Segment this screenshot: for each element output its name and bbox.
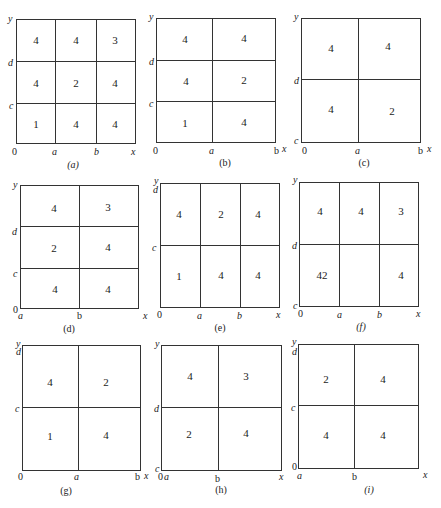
origin-label: 0 — [153, 146, 158, 156]
cell-value: 4 — [112, 78, 118, 89]
tick-label-c: c — [293, 301, 297, 311]
axis-label-x: x — [131, 147, 135, 157]
grid-line-y-d — [301, 79, 421, 80]
grid-line-x-a — [55, 19, 56, 144]
cell-value: 4 — [380, 430, 386, 441]
tick-label-c: c — [13, 269, 17, 279]
tick-label-c: c — [152, 243, 156, 253]
cell-value: 4 — [358, 206, 364, 217]
grid-line-y-d — [16, 61, 136, 62]
grid-line-x-a — [212, 18, 213, 143]
grid-line-y-d — [20, 226, 139, 227]
panel-caption: (f) — [356, 322, 365, 332]
tick-label-a: a — [337, 310, 342, 320]
panel-caption: (c) — [358, 158, 369, 168]
tick-label-b: b — [418, 146, 423, 156]
cell-value: 1 — [47, 431, 53, 442]
cell-value: 4 — [105, 242, 111, 253]
tick-label-d: d — [292, 347, 297, 357]
tick-label-a: a — [355, 146, 360, 156]
cell-value: 4 — [380, 374, 386, 385]
cell-value: 4 — [51, 203, 57, 214]
cell-value: 1 — [182, 118, 188, 129]
cell-value: 4 — [243, 428, 249, 439]
cell-value: 4 — [218, 270, 224, 281]
axis-label-x: x — [143, 311, 147, 321]
cell-value: 4 — [33, 78, 39, 89]
tick-label-b: b — [274, 146, 279, 156]
grid-line-y-c — [156, 101, 276, 102]
cell-value: 4 — [328, 104, 334, 115]
cell-value: 4 — [73, 35, 79, 46]
cell-value: 4 — [398, 270, 404, 281]
region-box — [22, 345, 141, 471]
cell-value: 1 — [33, 119, 39, 130]
grid-line-x-b — [79, 185, 80, 309]
panel-caption: (h) — [215, 485, 227, 495]
grid-line-x-b — [96, 19, 97, 144]
tick-label-c: c — [149, 99, 153, 109]
grid-line-y-d — [161, 407, 282, 408]
cell-value: 3 — [243, 371, 249, 382]
origin-label: 0 — [157, 310, 162, 320]
cell-value: 2 — [51, 243, 57, 254]
cell-value: 4 — [241, 117, 247, 128]
tick-label-c: c — [291, 403, 295, 413]
region-box — [301, 18, 421, 143]
grid-line-y-c — [160, 245, 280, 246]
tick-label-a: a — [74, 472, 79, 482]
tick-label-b: b — [237, 311, 242, 321]
axis-label-y: y — [293, 175, 297, 185]
axis-label-x: x — [416, 309, 420, 319]
cell-value: 4 — [47, 377, 53, 388]
grid-line-y-c — [16, 103, 136, 104]
region-box — [156, 18, 276, 143]
tick-label-d: d — [12, 227, 17, 237]
origin-label: 0 — [18, 472, 23, 482]
cell-value: 4 — [255, 270, 261, 281]
axis-label-y: y — [149, 12, 153, 22]
origin-label: 0 — [12, 147, 17, 157]
region-box — [298, 344, 419, 469]
grid-line-y-c — [298, 405, 419, 406]
axis-label-y: y — [155, 339, 159, 349]
cell-value: 4 — [317, 206, 323, 217]
tick-label-b: b — [352, 472, 357, 482]
cell-value: 4 — [176, 209, 182, 220]
cell-value: 4 — [182, 34, 188, 45]
cell-value: 2 — [389, 106, 395, 117]
grid-line-x-a — [78, 345, 79, 471]
panel-caption: (a) — [67, 160, 79, 170]
panel-caption: (i) — [364, 485, 373, 495]
tick-label-a: a — [197, 311, 202, 321]
axis-label-x: x — [423, 470, 427, 480]
cell-value: 4 — [255, 209, 261, 220]
cell-value: 4 — [33, 35, 39, 46]
cell-value: 2 — [186, 429, 192, 440]
tick-label-a: a — [52, 147, 57, 157]
tick-label-a: a — [164, 472, 169, 482]
axis-label-y: y — [294, 12, 298, 22]
axis-label-x: x — [276, 310, 280, 320]
cell-value: 4 — [241, 33, 247, 44]
tick-label-a: a — [18, 311, 23, 321]
cell-value: 4 — [187, 371, 193, 382]
tick-label-c: c — [294, 136, 298, 146]
tick-label-d: d — [292, 241, 297, 251]
tick-label-d: d — [294, 76, 299, 86]
cell-value: 3 — [105, 202, 111, 213]
tick-label-d: d — [154, 404, 159, 414]
tick-label-b: b — [377, 310, 382, 320]
cell-value: 4 — [328, 43, 334, 54]
axis-label-y: y — [8, 14, 12, 24]
panel-caption: (g) — [60, 486, 72, 496]
grid-line-y-d — [156, 60, 276, 61]
tick-label-c: c — [15, 404, 19, 414]
tick-label-b: b — [94, 147, 99, 157]
tick-label-d: d — [16, 347, 21, 357]
cell-value: 2 — [73, 78, 79, 89]
cell-value: 2 — [218, 209, 224, 220]
tick-label-b: b — [77, 311, 82, 321]
origin-label: 0 — [302, 146, 307, 156]
origin-label: 0 — [298, 309, 303, 319]
